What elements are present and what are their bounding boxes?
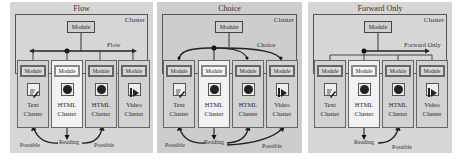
panel-forward-only: Forward Only Cluster Module Forward Only… — [308, 2, 452, 153]
cluster-column-html: Module HTMLCluster — [51, 60, 83, 128]
text-edit-icon — [27, 83, 40, 96]
cluster-column-html: Module HTMLCluster — [348, 60, 380, 128]
module-box: Module — [269, 65, 295, 77]
cluster-column-video: Module VideoCluster — [416, 60, 448, 128]
html-globe-icon — [358, 83, 371, 96]
possible-label: Possible — [165, 142, 185, 148]
cluster-caption: HTMLCluster — [199, 100, 229, 118]
html-globe-icon — [392, 83, 405, 96]
module-box: Module — [166, 65, 192, 77]
cluster-caption: VideoCluster — [417, 100, 447, 118]
cluster-caption: HTMLCluster — [383, 100, 413, 118]
possible-label: Possible — [392, 144, 412, 150]
module-box: Module — [20, 65, 46, 77]
cluster-caption: TextCluster — [164, 100, 194, 118]
cluster-column-text: Module TextCluster — [314, 60, 346, 128]
video-play-icon — [426, 83, 439, 96]
cluster-caption: VideoCluster — [267, 100, 297, 118]
cluster-column-video: Module VideoCluster — [118, 60, 150, 128]
module-box: Module — [419, 65, 445, 77]
html-globe-icon — [61, 83, 74, 96]
cluster-column-text: Module TextCluster — [17, 60, 49, 128]
cluster-caption: HTMLCluster — [86, 100, 116, 118]
reading-label: Reading — [59, 139, 79, 145]
module-box: Module — [88, 65, 114, 77]
cluster-column-html: Module HTMLCluster — [382, 60, 414, 128]
video-play-icon — [276, 83, 289, 96]
cluster-column-html: Module HTMLCluster — [232, 60, 264, 128]
cluster-column-html: Module HTMLCluster — [85, 60, 117, 128]
cluster-caption: HTMLCluster — [52, 100, 82, 118]
possible-label: Possible — [262, 143, 282, 149]
module-box: Module — [235, 65, 261, 77]
module-box: Module — [54, 65, 80, 77]
module-box: Module — [385, 65, 411, 77]
html-globe-icon — [242, 83, 255, 96]
cluster-caption: TextCluster — [315, 100, 345, 118]
cluster-column-video: Module VideoCluster — [266, 60, 298, 128]
cluster-caption: TextCluster — [18, 100, 48, 118]
reading-label: Reading — [354, 139, 374, 145]
cluster-caption: HTMLCluster — [233, 100, 263, 118]
cluster-column-html: Module HTMLCluster — [198, 60, 230, 128]
cluster-caption: VideoCluster — [119, 100, 149, 118]
module-box: Module — [201, 65, 227, 77]
module-box: Module — [121, 65, 147, 77]
html-globe-icon — [208, 83, 221, 96]
module-box: Module — [317, 65, 343, 77]
panel-flow: Flow Cluster Module Flow Module TextClus… — [10, 2, 153, 153]
possible-label: Possible — [20, 142, 40, 148]
cluster-caption: HTMLCluster — [349, 100, 379, 118]
html-globe-icon — [95, 83, 108, 96]
video-play-icon — [128, 83, 141, 96]
text-edit-icon — [173, 83, 186, 96]
panel-choice: Choice Cluster Module Choice Module Text… — [157, 2, 302, 153]
text-edit-icon — [324, 83, 337, 96]
module-box: Module — [351, 65, 377, 77]
possible-label: Possible — [94, 142, 114, 148]
cluster-column-text: Module TextCluster — [163, 60, 195, 128]
reading-label: Reading — [204, 139, 224, 145]
